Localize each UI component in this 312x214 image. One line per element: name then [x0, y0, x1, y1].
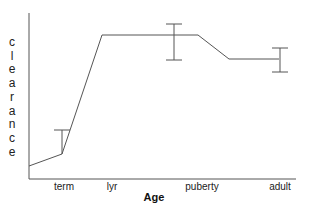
error-bar-puberty	[166, 24, 182, 60]
y-label-letter: a	[9, 104, 16, 118]
clearance-line	[29, 35, 279, 166]
x-axis-label: Age	[144, 191, 165, 203]
y-axis-label: clearance	[9, 35, 16, 159]
error-bar-adult	[272, 48, 288, 72]
x-tick-labels: termlyrpubertyadult	[54, 181, 291, 192]
y-label-letter: c	[9, 35, 15, 49]
x-tick-lyr: lyr	[107, 181, 118, 192]
error-bar-term	[54, 130, 70, 154]
y-label-letter: e	[9, 145, 16, 159]
x-tick-adult: adult	[269, 181, 291, 192]
y-label-letter: l	[11, 49, 14, 63]
x-tick-puberty: puberty	[185, 181, 218, 192]
clearance-chart: clearance termlyrpubertyadult Age	[0, 0, 312, 214]
error-bars	[54, 24, 288, 154]
y-label-letter: e	[9, 62, 16, 76]
y-label-letter: a	[9, 76, 16, 90]
y-label-letter: n	[9, 117, 16, 131]
y-label-letter: r	[10, 90, 14, 104]
y-label-letter: c	[9, 131, 15, 145]
x-tick-term: term	[54, 181, 74, 192]
